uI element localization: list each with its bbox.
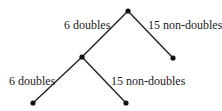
edge-label-bottom-left: 6 doubles	[9, 75, 55, 87]
edge-label-bottom-right: 15 non-doubles	[111, 75, 185, 87]
node-mid	[79, 54, 84, 59]
edge-label-top-left: 6 doubles	[64, 19, 110, 31]
edge-label-top-right: 15 non-doubles	[148, 19, 222, 31]
node-leaf-bottom-left	[30, 100, 35, 105]
node-root	[125, 8, 130, 13]
node-leaf-right	[170, 55, 175, 60]
node-leaf-bottom-right	[123, 100, 128, 105]
tree-diagram	[0, 0, 222, 111]
